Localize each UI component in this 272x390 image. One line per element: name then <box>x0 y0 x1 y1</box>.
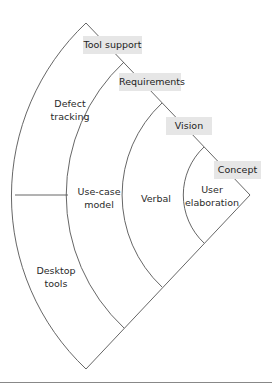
label-use-case-model: Use-case model <box>77 185 120 211</box>
outer-arc <box>11 23 86 369</box>
label-defect-tracking: Defect tracking <box>51 97 90 123</box>
tag-vision: Vision <box>166 117 212 135</box>
tag-requirements: Requirements <box>119 73 181 91</box>
label-user-elaboration: User elaboration <box>185 183 239 209</box>
label-verbal: Verbal <box>141 192 171 205</box>
label-desktop-tools: Desktop tools <box>36 264 75 290</box>
tag-concept: Concept <box>214 161 261 179</box>
tag-tool-support: Tool support <box>83 36 142 54</box>
bottom-rule <box>0 382 272 383</box>
lower-edge <box>86 195 250 369</box>
